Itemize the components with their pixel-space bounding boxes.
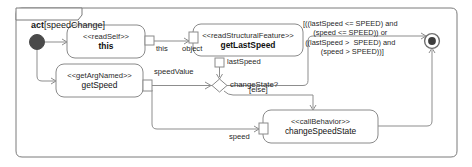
decision-node-shape[interactable] bbox=[212, 79, 227, 92]
changespeedstate-node-text: <<callBehavior>> changeSpeedState bbox=[263, 110, 378, 143]
getargnamed-output-pin-label: speedValue bbox=[154, 68, 194, 77]
getargnamed-stereotype: <<getArgNamed>> bbox=[67, 71, 132, 80]
edge-initial-to-getargnamed bbox=[37, 50, 55, 81]
final-node-inner-dot bbox=[428, 37, 436, 45]
edge-changespeedstate-to-final bbox=[378, 50, 432, 126]
readself-output-pin-shape bbox=[145, 36, 154, 45]
guard-condition-else: [else] bbox=[249, 86, 268, 95]
getargnamed-node-text: <<getArgNamed>> getSpeed bbox=[56, 64, 143, 97]
guard-condition-true: [((lastSpeed <= SPEED) and (speed <= SPE… bbox=[303, 19, 398, 57]
getlastspeed-output-pin-label: lastSpeed bbox=[227, 58, 261, 67]
getlastspeed-input-pin-label: object bbox=[182, 45, 202, 54]
readself-name: this bbox=[99, 41, 114, 51]
activity-diagram-canvas: act[speedChange] <<readSelf>> this this … bbox=[0, 0, 472, 167]
getlastspeed-output-pin-shape bbox=[215, 58, 224, 67]
getlastspeed-name: getLastSpeed bbox=[221, 40, 276, 50]
frame-keyword: act bbox=[31, 20, 44, 30]
changespeedstate-input-pin-label: speed bbox=[229, 133, 250, 142]
getargnamed-name: getSpeed bbox=[82, 80, 118, 90]
getlastspeed-stereotype: <<readStructuralFeature>> bbox=[202, 31, 294, 40]
readself-output-pin-label: this bbox=[156, 45, 168, 54]
readself-node-text: <<readSelf>> this bbox=[67, 25, 145, 58]
edge-decision-else-to-changespeedstate bbox=[224, 91, 313, 108]
edge-speedvalue-to-speed-pin bbox=[152, 90, 258, 129]
getargnamed-output-pin-shape bbox=[143, 80, 152, 91]
changespeedstate-name: changeSpeedState bbox=[285, 126, 356, 136]
getlastspeed-node-text: <<readStructuralFeature>> getLastSpeed bbox=[193, 24, 303, 56]
readself-stereotype: <<readSelf>> bbox=[83, 32, 129, 41]
changespeedstate-stereotype: <<callBehavior>> bbox=[291, 117, 350, 126]
